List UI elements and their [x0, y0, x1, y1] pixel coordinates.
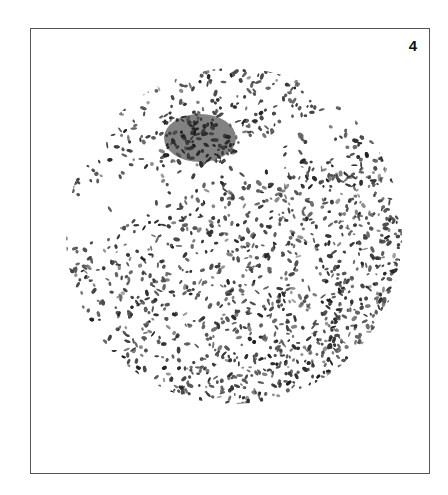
- stippled-circle-illustration: [0, 0, 448, 495]
- stipple-marks: [64, 67, 406, 408]
- dark-patch: [164, 114, 236, 162]
